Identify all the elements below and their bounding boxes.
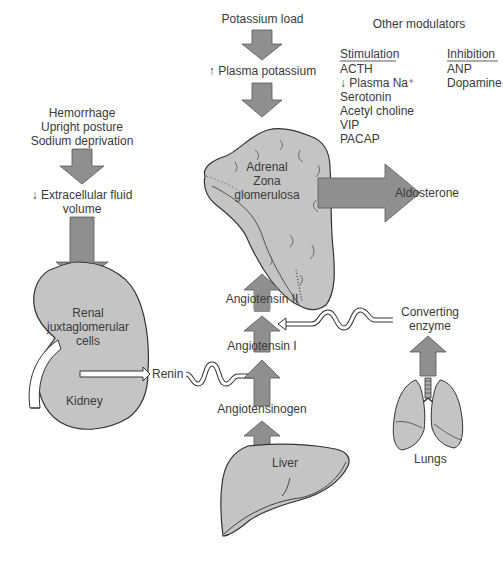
stimulus-hemorrhage: Hemorrhage (12, 106, 152, 120)
kidney-label: Kidney (66, 394, 103, 408)
inhibition-item: ANP (447, 62, 502, 76)
inhibition-item: Dopamine (447, 76, 502, 90)
stimulation-header: Stimulation (340, 47, 399, 61)
angiotensin-i-label: Angiotensin I (200, 339, 324, 353)
converting-enzyme-line-2: enzyme (395, 319, 465, 333)
stimulus-sodium-deprivation: Sodium deprivation (12, 134, 152, 148)
plasma-potassium-label: ↑ Plasma potassium (190, 64, 335, 78)
renin-label: Renin (152, 367, 183, 381)
kidney-label-line-3: cells (38, 334, 138, 348)
ecf-volume-label: ↓ Extracellular fluid volume (2, 188, 162, 216)
lungs-label: Lungs (414, 452, 447, 466)
kidney-label-line-2: juxtaglomerular (38, 320, 138, 334)
inhibition-list: ANP Dopamine (447, 62, 502, 90)
liver-label: Liver (272, 456, 298, 470)
adrenal-label: Adrenal Zona glomerulosa (232, 160, 302, 202)
converting-enzyme-label: Converting enzyme (395, 305, 465, 333)
inhibition-header: Inhibition (447, 47, 495, 61)
adrenal-label-line-2: Zona (232, 174, 302, 188)
aldosterone-label: Aldosterone (395, 186, 459, 200)
stimulation-item: ACTH (340, 62, 414, 76)
kidney-cells-label: Renal juxtaglomerular cells (38, 306, 138, 348)
potassium-load-label: Potassium load (190, 12, 335, 26)
stimulation-item: Acetyl choline (340, 104, 414, 118)
angiotensinogen-label: Angiotensinogen (200, 402, 324, 416)
arrow-stimuli-to-ecf (60, 149, 104, 184)
raas-diagram (0, 0, 503, 566)
converting-enzyme-wavy-arrow (278, 310, 393, 330)
stimulation-list: ACTH ↓ Plasma Na⁺ Serotonin Acetyl choli… (340, 62, 414, 146)
arrow-liver-to-angiotensinogen (244, 421, 280, 446)
stimulation-item: Serotonin (340, 90, 414, 104)
adrenal-label-line-1: Adrenal (232, 160, 302, 174)
adrenal-label-line-3: glomerulosa (232, 188, 302, 202)
stimulation-item: PACAP (340, 132, 414, 146)
arrow-plasma-potassium (242, 83, 282, 117)
lungs-shape (393, 378, 462, 450)
stimuli-list: Hemorrhage Upright posture Sodium depriv… (12, 106, 152, 148)
arrow-lungs-to-enzyme (410, 336, 446, 376)
ecf-volume-line-1: ↓ Extracellular fluid (2, 188, 162, 202)
angiotensin-ii-label: Angiotensin II (200, 292, 324, 306)
arrow-potassium-load (242, 30, 282, 60)
ecf-volume-line-2: volume (2, 202, 162, 216)
converting-enzyme-line-1: Converting (395, 305, 465, 319)
arrow-angiotensinogen-to-i (244, 360, 280, 406)
stimulation-item: ↓ Plasma Na⁺ (340, 76, 414, 90)
stimulus-upright-posture: Upright posture (12, 120, 152, 134)
kidney-label-line-1: Renal (38, 306, 138, 320)
stimulation-item: VIP (340, 118, 414, 132)
modulators-title: Other modulators (340, 17, 498, 31)
